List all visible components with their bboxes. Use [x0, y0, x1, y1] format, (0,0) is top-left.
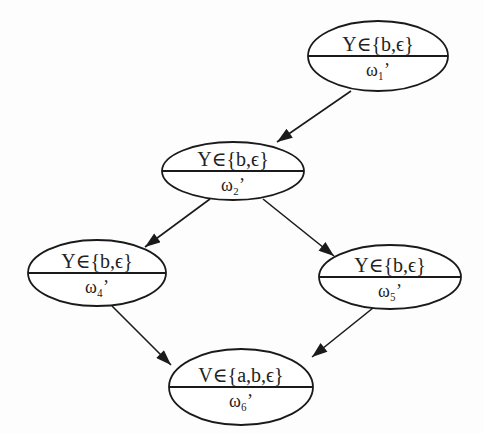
edge-arrow-n2-to-n5 — [263, 199, 334, 256]
edges-layer — [112, 91, 373, 365]
node-weight-label: ω₁’ — [366, 60, 390, 80]
node-n4: Y∈{b,ϵ}ω₄’ — [28, 240, 166, 306]
node-constraint-label: Y∈{b,ϵ} — [354, 254, 426, 276]
node-weight-label: ω₂’ — [221, 175, 245, 195]
nodes-layer: Y∈{b,ϵ}ω₁’Y∈{b,ϵ}ω₂’Y∈{b,ϵ}ω₄’Y∈{b,ϵ}ω₅’… — [28, 21, 461, 425]
graph-svg: Y∈{b,ϵ}ω₁’Y∈{b,ϵ}ω₂’Y∈{b,ϵ}ω₄’Y∈{b,ϵ}ω₅’… — [0, 0, 484, 433]
node-n1: Y∈{b,ϵ}ω₁’ — [308, 21, 448, 91]
node-weight-label: ω₆’ — [229, 391, 253, 411]
edge-arrow-n4-to-n6 — [112, 306, 171, 365]
node-n5: Y∈{b,ϵ}ω₅’ — [319, 245, 461, 309]
node-weight-label: ω₅’ — [378, 281, 402, 301]
node-constraint-label: Y∈{b,ϵ} — [61, 250, 133, 272]
diagram-canvas: Y∈{b,ϵ}ω₁’Y∈{b,ϵ}ω₂’Y∈{b,ϵ}ω₄’Y∈{b,ϵ}ω₅’… — [0, 0, 484, 433]
node-weight-label: ω₄’ — [85, 277, 109, 297]
node-constraint-label: Y∈{b,ϵ} — [342, 33, 414, 55]
edge-arrow-n2-to-n4 — [145, 199, 210, 247]
node-constraint-label: V∈{a,b,ϵ} — [198, 364, 283, 386]
edge-arrow-n5-to-n6 — [312, 308, 373, 357]
edge-arrow-n1-to-n2 — [277, 91, 351, 142]
node-n2: Y∈{b,ϵ}ω₂’ — [162, 142, 304, 200]
node-n6: V∈{a,b,ϵ}ω₆’ — [169, 349, 313, 425]
node-constraint-label: Y∈{b,ϵ} — [197, 148, 269, 170]
